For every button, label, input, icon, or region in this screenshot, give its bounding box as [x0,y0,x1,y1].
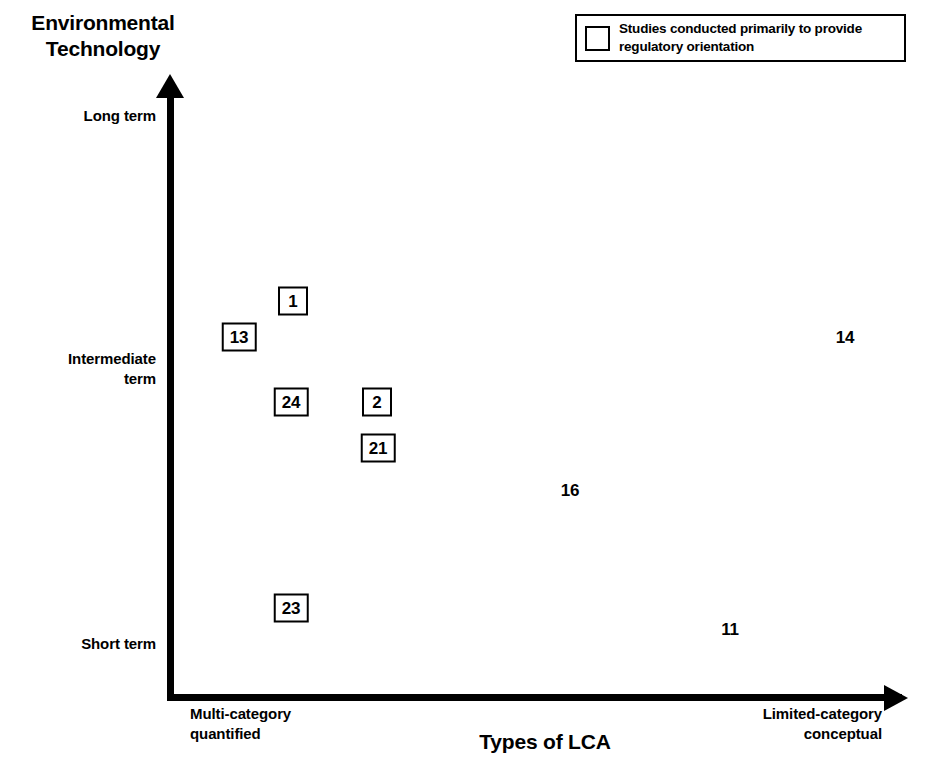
y-axis-arrow-icon [156,74,184,98]
legend-label: Studies conducted primarily to provide r… [619,20,862,55]
data-point-2: 2 [362,388,392,417]
y-axis-line [167,92,174,700]
data-point-23: 23 [274,594,309,623]
x-tick-label-multi-category-quantified: Multi-category quantified [190,704,291,744]
y-axis-title: Environmental Technology [8,10,198,61]
y-tick-label-intermediate-term: Intermediate term [68,349,156,389]
data-point-1: 1 [278,287,308,316]
x-tick-label-limited-category-conceptual: Limited-category conceptual [640,704,882,744]
data-point-21: 21 [361,434,396,463]
data-point-13: 13 [222,323,257,352]
data-point-11: 11 [721,620,739,640]
x-axis-arrow-icon [884,685,908,711]
y-tick-label-long-term: Long term [84,106,156,126]
y-tick-label-short-term: Short term [81,634,156,654]
chart-legend: Studies conducted primarily to provide r… [575,14,906,62]
x-axis-line [167,694,902,701]
data-point-24: 24 [274,388,309,417]
legend-swatch-open-square-icon [585,26,610,51]
data-point-14: 14 [836,328,855,348]
chart-canvas: Environmental Technology Types of LCA Lo… [0,0,928,769]
data-point-16: 16 [561,481,580,501]
